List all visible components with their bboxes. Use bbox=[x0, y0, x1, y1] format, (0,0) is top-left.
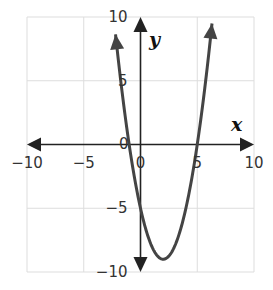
x-tick-label: 0 bbox=[136, 154, 146, 172]
y-tick-label: −10 bbox=[96, 263, 128, 281]
y-tick-label: −5 bbox=[105, 199, 127, 217]
y-axis-down-arrow-icon bbox=[134, 257, 148, 272]
y-axis-label: y bbox=[148, 28, 162, 50]
parabola-chart: −10−505101050−5−10 x y bbox=[0, 0, 273, 290]
axes bbox=[27, 17, 254, 272]
y-tick-label: 0 bbox=[119, 135, 129, 153]
y-tick-label: 10 bbox=[108, 8, 127, 26]
x-axis-label: x bbox=[230, 113, 243, 135]
x-tick-label: 10 bbox=[244, 154, 263, 172]
x-axis-left-arrow-icon bbox=[27, 138, 41, 152]
x-tick-label: −5 bbox=[73, 154, 95, 172]
y-axis-up-arrow-icon bbox=[134, 17, 148, 32]
x-axis-right-arrow-icon bbox=[240, 138, 254, 152]
x-tick-label: −10 bbox=[11, 154, 43, 172]
y-tick-label: 5 bbox=[118, 72, 128, 90]
x-tick-label: 5 bbox=[192, 154, 202, 172]
